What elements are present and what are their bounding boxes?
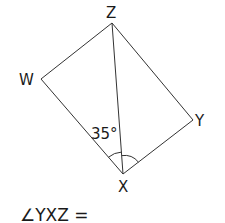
vertex-label-w: W xyxy=(19,71,34,89)
vertex-label-y: Y xyxy=(194,112,205,130)
vertex-label-x: X xyxy=(118,178,128,196)
vertex-label-z: Z xyxy=(106,4,116,22)
angle-arc-yxz xyxy=(122,155,139,162)
question-text: ∠YXZ = xyxy=(20,205,89,223)
diagonal-xz xyxy=(112,23,123,174)
angle-arc-wxz xyxy=(109,152,122,157)
angle-value-label: 35° xyxy=(91,125,118,143)
geometry-diagram: Z W Y X 35° ∠YXZ = xyxy=(0,0,225,223)
